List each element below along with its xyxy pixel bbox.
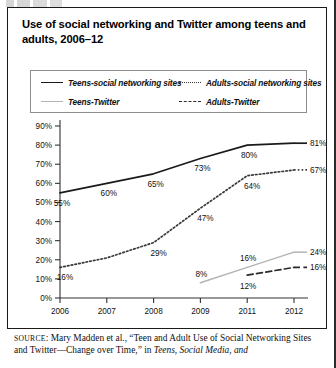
- legend-line-dashed-icon: [179, 97, 201, 106]
- legend-line-gray-icon: [41, 97, 63, 106]
- data-point-label: 16%: [310, 263, 326, 272]
- data-point-label: 65%: [147, 180, 163, 189]
- y-axis-tick-label: 30%: [36, 237, 52, 246]
- chart-legend: Teens-social networking sites Adults-soc…: [30, 70, 307, 113]
- x-axis-tick-label: 2006: [51, 307, 70, 316]
- y-axis-tick-label: 60%: [36, 179, 52, 188]
- legend-item-adults-twitter: Adults-Twitter: [179, 97, 259, 107]
- source-italic-title: Teens, Social Media, and: [154, 345, 248, 355]
- y-axis-tick-label: 80%: [36, 141, 52, 150]
- y-axis-tick-label: 20%: [36, 256, 52, 265]
- y-axis-tick-label: 50%: [36, 198, 52, 207]
- legend-item-teens-social: Teens-social networking sites: [41, 78, 181, 88]
- chart-plot-area: 0%10%20%30%40%50%60%70%80%90% 2006200720…: [8, 112, 328, 330]
- x-axis-tick-label: 2009: [191, 307, 210, 316]
- data-point-label: 8%: [195, 270, 207, 279]
- legend-item-adults-social: Adults-social networking sites: [179, 78, 321, 88]
- y-axis-tick-label: 90%: [36, 122, 52, 131]
- data-point-label: 55%: [54, 199, 70, 208]
- data-point-label: 24%: [310, 248, 326, 257]
- data-point-label: 12%: [240, 282, 256, 291]
- y-axis-tick-label: 40%: [36, 218, 52, 227]
- source-keyword: SOURCE: [14, 334, 46, 343]
- data-point-label: 60%: [101, 189, 117, 198]
- series-line: [247, 267, 294, 275]
- data-point-label: 29%: [150, 249, 166, 258]
- chart-title: Use of social networking and Twitter amo…: [22, 17, 314, 46]
- data-point-label: 16%: [57, 273, 73, 282]
- figure-card: Use of social networking and Twitter amo…: [7, 7, 327, 329]
- x-axis-tick-label: 2007: [98, 307, 117, 316]
- data-point-label: 81%: [310, 139, 326, 148]
- data-point-label: 73%: [194, 164, 210, 173]
- legend-label: Teens-Twitter: [68, 97, 119, 107]
- x-axis-tick-label: 2008: [144, 307, 163, 316]
- y-axis-tick-label: 10%: [36, 275, 52, 284]
- data-point-label: 16%: [240, 254, 256, 263]
- legend-label: Adults-social networking sites: [206, 78, 321, 88]
- x-axis: 200620072008200920112012: [51, 298, 308, 316]
- data-point-label: 67%: [310, 166, 326, 175]
- legend-label: Adults-Twitter: [206, 97, 259, 107]
- source-note: SOURCE: Mary Madden et al., “Teen and Ad…: [14, 333, 326, 356]
- series-lines: [60, 143, 307, 283]
- data-point-label: 47%: [197, 214, 213, 223]
- data-point-label: 80%: [241, 151, 257, 160]
- legend-label: Teens-social networking sites: [68, 78, 181, 88]
- data-point-label: 64%: [244, 182, 260, 191]
- legend-line-dotted-icon: [179, 78, 201, 87]
- x-axis-tick-label: 2012: [285, 307, 304, 316]
- figure-number-stub: [6, 0, 76, 7]
- legend-item-teens-twitter: Teens-Twitter: [41, 97, 119, 107]
- line-chart-svg: 0%10%20%30%40%50%60%70%80%90% 2006200720…: [8, 112, 328, 330]
- y-axis-tick-label: 0%: [40, 294, 52, 303]
- legend-line-solid-icon: [41, 78, 63, 87]
- x-axis-tick-label: 2011: [238, 307, 256, 316]
- y-axis-tick-label: 70%: [36, 160, 52, 169]
